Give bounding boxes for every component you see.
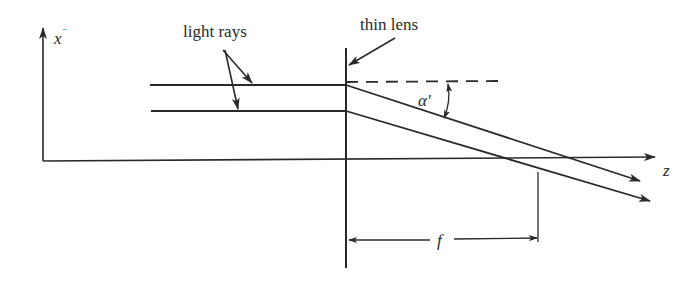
z-axis (43, 157, 655, 161)
ray-upper-refracted (346, 85, 640, 181)
angle-alpha-label: α′ (418, 91, 431, 110)
light-rays-label: light rays (183, 22, 247, 41)
thin-lens-label: thin lens (360, 15, 418, 34)
thin-lens-pointer (349, 38, 395, 65)
x-axis-mark: ¨ (63, 26, 67, 38)
focal-dimension-right (454, 238, 537, 239)
z-axis-label: z (662, 161, 670, 180)
ray-lower-refracted (346, 111, 650, 201)
light-rays-pointer-upper (223, 50, 252, 83)
thin-lens-diagram: x ¨ z thin lens light rays α′ f (0, 0, 693, 290)
angle-alpha-arc (444, 84, 449, 118)
focal-length-label: f (437, 231, 444, 250)
x-axis-label: x (53, 29, 62, 48)
reference-dashed-line (346, 81, 498, 82)
diagram-svg: x ¨ z thin lens light rays α′ f (0, 0, 693, 290)
